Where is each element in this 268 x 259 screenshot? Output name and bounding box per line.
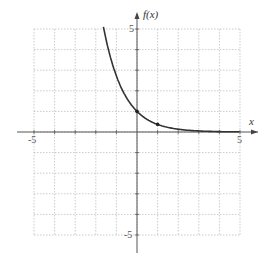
- x-axis-label: x: [249, 115, 254, 127]
- plot-area: [0, 0, 268, 259]
- x-tick-min: -5: [28, 134, 36, 145]
- y-axis-label: f(x): [143, 8, 158, 20]
- y-tick-max: 5: [129, 23, 134, 34]
- x-tick-max: 5: [237, 134, 242, 145]
- y-tick-min: -5: [124, 229, 132, 240]
